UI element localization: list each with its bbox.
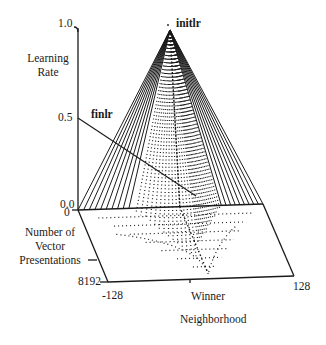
horizontal-tick-label-128: 128 [293, 279, 310, 293]
surface-lines [78, 30, 263, 274]
tick-label-1-0: 1.0 [58, 16, 72, 30]
tick-1-0 [74, 27, 78, 32]
vertical-axis-label: Learning Rate [20, 51, 76, 79]
depth-axis-label-line2: Vector [14, 239, 86, 253]
back-base-line [78, 204, 263, 210]
tick-label-0-5: 0.5 [58, 110, 72, 124]
right-base-edge [263, 204, 294, 276]
vertical-axis-label-line2: Rate [20, 65, 76, 79]
vertical-axis-label-line1: Learning [20, 51, 76, 65]
initlr-label: initlr [176, 16, 201, 30]
front-base-line [108, 276, 294, 282]
finlr-label: finlr [91, 107, 113, 121]
initlr-marker [167, 24, 169, 26]
depth-tick-label-0: 0 [64, 205, 70, 219]
horizontal-axis-label-line1: Winner [191, 289, 225, 303]
depth-axis-label-line1: Number of [14, 225, 86, 239]
horizontal-tick-label-neg128: -128 [102, 288, 123, 302]
horizontal-axis-label-line2: Neighborhood [180, 312, 246, 326]
depth-tick-label-8192: 8192 [78, 274, 101, 288]
depth-axis-label: Number of Vector Presentations [14, 225, 86, 267]
depth-axis-label-line3: Presentations [14, 253, 86, 267]
